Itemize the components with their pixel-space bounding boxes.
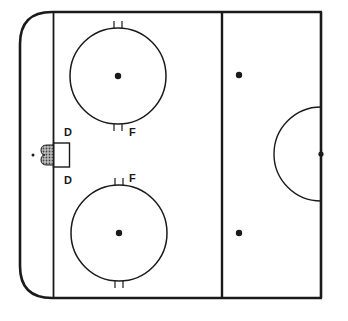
center-half-circle	[274, 107, 321, 201]
neutral-zone-dot-bottom	[236, 230, 242, 236]
bottom-faceoff-circle	[71, 178, 167, 288]
label-f-bottom: F	[129, 172, 136, 184]
goal-marker-dot	[32, 154, 35, 157]
hockey-rink-diagram: D F D F	[0, 0, 348, 321]
top-faceoff-dot	[115, 73, 121, 79]
top-faceoff-circle	[70, 21, 166, 131]
label-d-bottom: D	[64, 174, 72, 186]
goal-crease	[54, 143, 70, 167]
neutral-zone-dot-top	[236, 72, 242, 78]
center-faceoff-dot	[318, 151, 323, 156]
goal-net	[41, 145, 54, 165]
bottom-faceoff-dot	[116, 230, 122, 236]
label-f-top: F	[129, 126, 136, 138]
rink-boards	[20, 12, 322, 298]
label-d-top: D	[64, 126, 72, 138]
